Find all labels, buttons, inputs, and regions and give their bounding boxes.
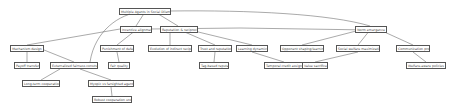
diagram-node-n15: Tag-based reputation [199,62,229,69]
diagram-node-n19: Long-term cooperation [22,80,60,87]
diagram-node-n18: Welfare-aware policies [406,62,446,69]
diagram-node-n17: Value sacrifice [302,62,328,69]
diagram-node-n4: Mechanism design [10,45,44,52]
diagram-node-n2: Reputation & reciprocity [160,26,198,33]
diagram-node-n7: Trust and reputation [198,45,232,52]
diagram-node-n1: Incentive alignment [120,26,152,33]
diagram-node-n5: Punishment of defectors [100,45,134,52]
edge-layer [0,0,462,107]
diagram-node-n13: Externalized fairness constraints [50,62,98,69]
diagram-node-n6: Evolution of indirect reciprocity [148,45,192,52]
diagram-node-n12: Payoff transfers [14,62,40,69]
diagram-node-n20: Myopic vs farsighted agents [88,80,134,87]
diagram-node-n3: Norm emergence [355,26,387,33]
diagram-node-n8: Learning dynamics [236,45,268,52]
diagram-node-n21: Robust cooperation under noise [92,96,132,103]
diagram-node-root: Multiple Agents in Social Dilemmas [119,8,171,15]
diagram-node-n14: Fair quality [108,62,130,69]
diagram-node-n9: Opponent shaping/learning-aware [280,45,324,52]
diagram-node-n11: Communication protocols [396,45,430,52]
diagram-node-n16: Temporal credit assignment [264,62,304,69]
diagram-node-n10: Social welfare maximization [336,45,380,52]
